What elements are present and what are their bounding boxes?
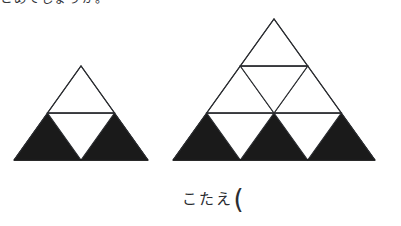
answer-open-paren: ( xyxy=(234,184,244,214)
left-fig-white-apex-triangle xyxy=(48,66,115,113)
figure-right xyxy=(173,19,375,160)
figure-left xyxy=(14,66,148,160)
prompt-text: とめてしょうか。 xyxy=(0,0,240,7)
worksheet-canvas: とめてしょうか。 xyxy=(0,0,401,226)
right-fig-white-apex-triangle xyxy=(240,19,307,66)
answer-line: こたえ( xyxy=(182,188,244,210)
answer-label: こたえ xyxy=(182,190,234,208)
